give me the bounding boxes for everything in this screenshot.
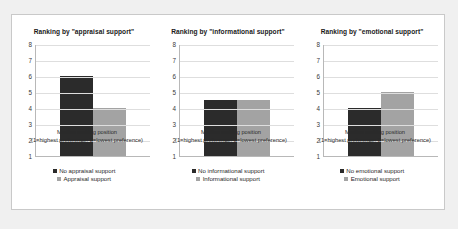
x-axis-label-line2: (1=highest preference; 8=lowest preferen… [308,137,442,145]
y-axis-tick-label: 7 [316,58,320,64]
y-axis-tick-label: 6 [172,74,176,80]
y-axis-tick-label: 1 [28,154,32,160]
x-axis-label-line1: Median ranking position [308,129,442,137]
gridline [180,93,294,94]
legend-item: No appraisal support [53,167,116,174]
x-axis-label-line1: Median ranking position [164,129,298,137]
legend-item: Appraisal support [57,175,111,182]
y-axis-tick-label: 4 [172,106,176,112]
gridline [180,77,294,78]
chart-title: Ranking by "appraisal support" [12,28,156,35]
gridline [180,125,294,126]
y-axis-tick-label: 5 [28,90,32,96]
gridline [324,125,438,126]
legend-swatch-icon [57,177,61,181]
legend-item: Emotional support [344,175,400,182]
chart-legend: No informational supportInformational su… [156,167,300,182]
chart-appraisal-support: Ranking by "appraisal support" 87654321 … [12,15,156,209]
bar [381,92,414,156]
legend-swatch-icon [192,169,196,173]
y-axis-tick-label: 3 [316,122,320,128]
figure-panel: Ranking by "appraisal support" 87654321 … [11,14,445,210]
y-axis-tick-label: 8 [28,42,32,48]
gridline [180,61,294,62]
gridline [180,109,294,110]
y-axis-tick-label: 3 [172,122,176,128]
legend-item: No informational support [192,167,265,174]
y-axis-tick-label: 5 [172,90,176,96]
x-axis-label-line2: (1=highest preference; 8=lowest preferen… [20,137,154,145]
gridline [36,109,150,110]
legend-item-label: Emotional support [351,175,400,182]
y-axis-tick-label: 6 [316,74,320,80]
legend-item-label: Appraisal support [64,175,111,182]
gridline [36,93,150,94]
y-axis-tick-label: 4 [28,106,32,112]
gridline [180,45,294,46]
gridline [324,61,438,62]
legend-swatch-icon [344,177,348,181]
x-axis-label: Median ranking position (1=highest prefe… [20,129,154,144]
chart-informational-support: Ranking by "informational support" 87654… [156,15,300,209]
legend-swatch-icon [196,177,200,181]
legend-swatch-icon [340,169,344,173]
gridline [36,61,150,62]
legend-item: Informational support [196,175,260,182]
y-axis-tick-label: 1 [172,154,176,160]
y-axis-tick-label: 6 [28,74,32,80]
chart-title: Ranking by "emotional support" [300,28,444,35]
gridline [324,45,438,46]
chart-title: Ranking by "informational support" [156,28,300,35]
y-axis-tick-label: 8 [316,42,320,48]
x-axis-label: Median ranking position (1=highest prefe… [308,129,442,144]
gridline [324,109,438,110]
legend-item-label: No appraisal support [59,167,115,174]
chart-legend: No appraisal supportAppraisal support [12,167,156,182]
gridline [36,77,150,78]
y-axis-tick-label: 1 [316,154,320,160]
y-axis-tick-label: 8 [172,42,176,48]
gridline [324,77,438,78]
legend-item-label: Informational support [203,175,260,182]
legend-item-label: No emotional support [346,167,404,174]
chart-emotional-support: Ranking by "emotional support" 87654321 … [300,15,444,209]
x-axis-label: Median ranking position (1=highest prefe… [164,129,298,144]
plot-wrapper: 87654321 [12,45,154,167]
legend-swatch-icon [53,169,57,173]
y-axis-tick-label: 7 [172,58,176,64]
chart-legend: No emotional supportEmotional support [300,167,444,182]
legend-item-label: No informational support [198,167,264,174]
gridline [36,45,150,46]
plot-wrapper: 87654321 [300,45,442,167]
x-axis-label-line1: Median ranking position [20,129,154,137]
y-axis-tick-label: 7 [28,58,32,64]
legend-item: No emotional support [340,167,404,174]
gridline [324,93,438,94]
x-axis-label-line2: (1=highest preference; 8=lowest preferen… [164,137,298,145]
gridline [36,125,150,126]
y-axis-tick-label: 5 [316,90,320,96]
y-axis-tick-label: 4 [316,106,320,112]
y-axis-tick-label: 3 [28,122,32,128]
plot-wrapper: 87654321 [156,45,298,167]
